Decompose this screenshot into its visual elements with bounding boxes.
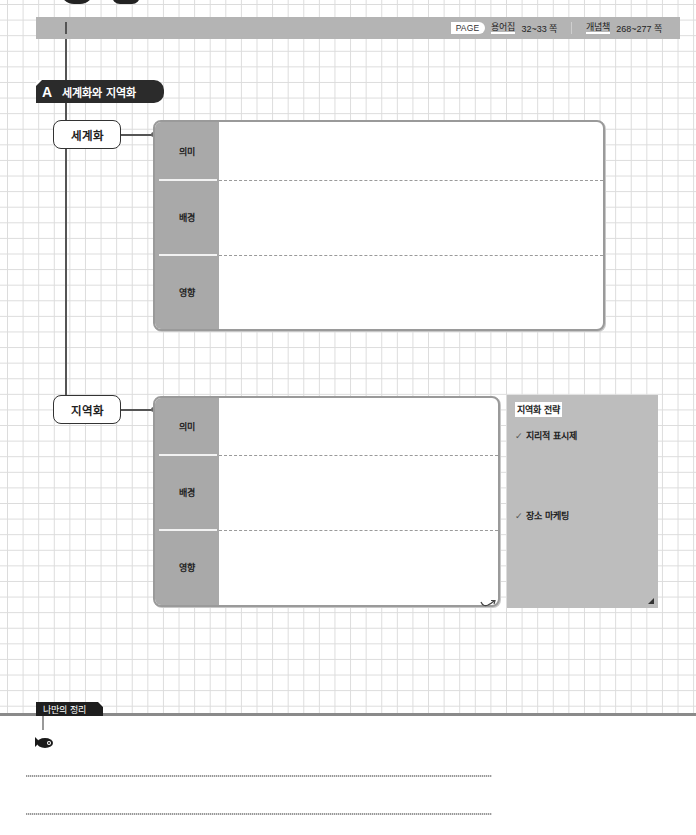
page-badge: PAGE: [451, 22, 486, 34]
summary-writing-line[interactable]: [26, 775, 492, 777]
strategy-item-geographical-indication: ✓ 지리적 표시제: [515, 429, 577, 442]
curved-arrow-icon: [479, 599, 497, 609]
row-background: 배경: [155, 455, 498, 530]
background-answer-field[interactable]: [219, 455, 498, 530]
concept-book-label: 개념책: [586, 22, 610, 34]
page-reference: PAGE 용어집 32~33 쪽 개념책 268~277 쪽: [451, 20, 662, 36]
glossary-label: 용어집: [491, 22, 515, 34]
strategy-item-place-marketing: ✓ 장소 마케팅: [515, 509, 569, 522]
strategy-title: 지역화 전략: [515, 402, 562, 417]
background-answer-field[interactable]: [219, 180, 603, 255]
section-title: 세계화와 지역화: [62, 84, 136, 100]
strategy-item-label: 장소 마케팅: [526, 509, 569, 522]
row-label: 배경: [155, 211, 219, 224]
decoration-blob: [60, 0, 94, 4]
node-globalization: 세계화: [53, 120, 121, 149]
row-meaning: 의미: [155, 122, 603, 180]
label-stem: [42, 716, 44, 730]
row-label: 의미: [155, 145, 219, 158]
my-summary-title: 나만의 정리: [43, 703, 86, 716]
summary-writing-line[interactable]: [26, 813, 492, 815]
globalization-connector: [121, 134, 154, 136]
section-label: A 세계화와 지역화: [36, 80, 164, 103]
section-divider-rule: [0, 713, 696, 716]
row-impact: 영향: [155, 530, 498, 605]
row-label: 배경: [155, 486, 219, 499]
localization-connector: [121, 409, 154, 411]
row-label: 의미: [155, 420, 219, 433]
globalization-card: 의미 배경 영향: [153, 120, 605, 331]
check-icon: ✓: [515, 511, 523, 521]
my-summary-label: 나만의 정리: [36, 702, 103, 716]
decoration-blob: [112, 0, 140, 4]
header-bar: PAGE 용어집 32~33 쪽 개념책 268~277 쪽: [36, 17, 680, 39]
node-localization: 지역화: [53, 395, 121, 424]
header-separator: [571, 22, 572, 34]
header-tick: [65, 22, 67, 34]
row-background: 배경: [155, 180, 603, 255]
strategy-item-label: 지리적 표시제: [526, 429, 577, 442]
fish-icon: [33, 736, 55, 750]
localization-card: 의미 배경 영향: [153, 396, 500, 607]
row-impact: 영향: [155, 255, 603, 329]
row-label: 영향: [155, 286, 219, 299]
concept-book-pages: 268~277 쪽: [616, 22, 662, 35]
row-label: 영향: [155, 561, 219, 574]
row-meaning: 의미: [155, 398, 498, 455]
impact-answer-field[interactable]: [219, 530, 498, 605]
meaning-answer-field[interactable]: [219, 122, 603, 180]
section-letter: A: [42, 84, 58, 100]
meaning-answer-field[interactable]: [219, 398, 498, 455]
impact-answer-field[interactable]: [219, 255, 603, 329]
page-number-decoration: [60, 0, 180, 4]
localization-strategy-panel: 지역화 전략 ✓ 지리적 표시제 ✓ 장소 마케팅: [507, 395, 658, 608]
corner-fold-icon: [648, 598, 654, 604]
check-icon: ✓: [515, 431, 523, 441]
glossary-pages: 32~33 쪽: [521, 22, 557, 35]
